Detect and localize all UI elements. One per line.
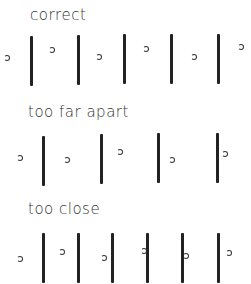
vertical-stroke xyxy=(111,233,114,283)
hook-glyph-icon xyxy=(183,253,189,259)
vertical-stroke xyxy=(100,134,103,184)
vertical-stroke xyxy=(217,34,220,84)
hook-glyph-icon xyxy=(169,157,175,163)
hook-glyph-icon xyxy=(96,54,102,60)
section-label-correct: correct xyxy=(30,6,86,24)
vertical-stroke xyxy=(77,35,80,85)
section-label-too-far-apart: too far apart xyxy=(28,103,129,121)
hook-glyph-icon xyxy=(17,256,23,262)
vertical-stroke xyxy=(217,233,220,283)
vertical-stroke xyxy=(170,34,173,84)
vertical-stroke xyxy=(42,136,45,186)
hook-glyph-icon xyxy=(4,55,10,61)
vertical-stroke xyxy=(42,233,45,283)
hook-glyph-icon xyxy=(191,54,197,60)
hook-glyph-icon xyxy=(222,151,228,157)
vertical-stroke xyxy=(30,36,33,86)
section-label-too-close: too close xyxy=(28,200,100,218)
hook-glyph-icon xyxy=(143,46,149,52)
hook-glyph-icon xyxy=(141,248,147,254)
hook-glyph-icon xyxy=(59,249,65,255)
vertical-stroke xyxy=(216,133,219,183)
hook-glyph-icon xyxy=(226,250,232,256)
hook-glyph-icon xyxy=(238,44,244,50)
vertical-stroke xyxy=(146,233,149,283)
hook-glyph-icon xyxy=(101,255,107,261)
vertical-stroke xyxy=(157,133,160,183)
hook-glyph-icon xyxy=(64,157,70,163)
hook-glyph-icon xyxy=(49,47,55,53)
vertical-stroke xyxy=(77,233,80,283)
hook-glyph-icon xyxy=(17,155,23,161)
vertical-stroke xyxy=(123,34,126,84)
hook-glyph-icon xyxy=(117,149,123,155)
